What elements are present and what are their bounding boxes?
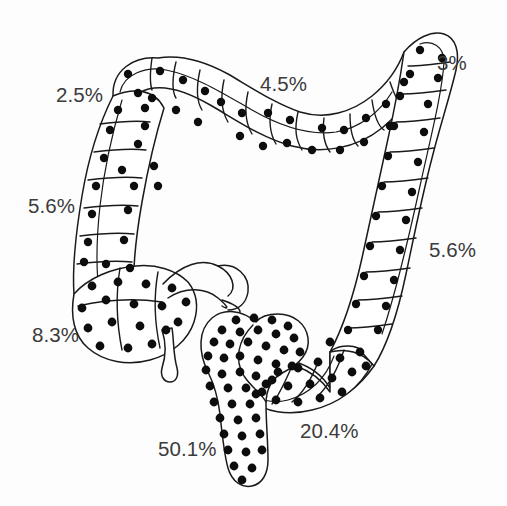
cecum-outline [73,266,197,363]
label-transverse-colon: 4.5% [260,72,307,96]
label-splenic-flexure: 3% [437,51,467,75]
label-rectum: 50.1% [158,437,217,461]
label-sigmoid-colon: 20.4% [300,419,359,443]
transverse-colon-outline [113,52,428,150]
label-descending-colon: 5.6% [429,238,476,262]
label-cecum: 8.3% [32,323,79,347]
label-ascending-colon: 5.6% [28,194,75,218]
label-hepatic-flexure: 2.5% [56,83,103,107]
colon-distribution-figure: 2.5% 4.5% 3% 5.6% 5.6% 8.3% 50.1% 20.4% [0,0,507,506]
cecum-group [73,266,197,363]
